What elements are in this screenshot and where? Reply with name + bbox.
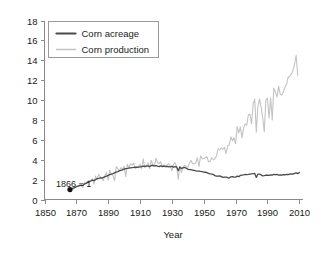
y-tick-label-4: 4 [32,155,37,166]
chart-figure: 024681012141618 185018701890191019301950… [0,0,324,253]
y-tick-label-12: 12 [27,75,38,86]
y-tick-label-14: 14 [27,55,38,66]
legend-label-corn-production: Corn production [82,44,150,55]
x-tick-label-2010: 2010 [289,207,310,218]
y-tick-label-6: 6 [32,135,37,146]
x-tick-label-1890: 1890 [98,207,119,218]
chart-legend: Corn acreageCorn production [49,22,159,58]
index-annotation-label: 1866 = 1 [56,179,91,189]
y-tick-label-8: 8 [32,115,37,126]
y-tick-label-2: 2 [32,175,37,186]
x-axis-title: Year [163,229,182,240]
base-year-dot-marker [67,187,72,192]
x-tick-label-1970: 1970 [226,207,247,218]
x-tick-label-1850: 1850 [35,207,56,218]
corn-acreage-production-line-chart: 024681012141618 185018701890191019301950… [0,0,324,253]
legend-label-corn-acreage: Corn acreage [82,28,140,39]
y-tick-label-16: 16 [27,35,38,46]
x-tick-label-1990: 1990 [257,207,278,218]
y-tick-label-18: 18 [27,16,38,27]
y-tick-label-0: 0 [32,195,37,206]
x-tick-label-1910: 1910 [130,207,151,218]
x-tick-label-1950: 1950 [194,207,215,218]
y-tick-label-10: 10 [27,95,38,106]
x-tick-label-1870: 1870 [66,207,87,218]
x-tick-label-1930: 1930 [162,207,183,218]
